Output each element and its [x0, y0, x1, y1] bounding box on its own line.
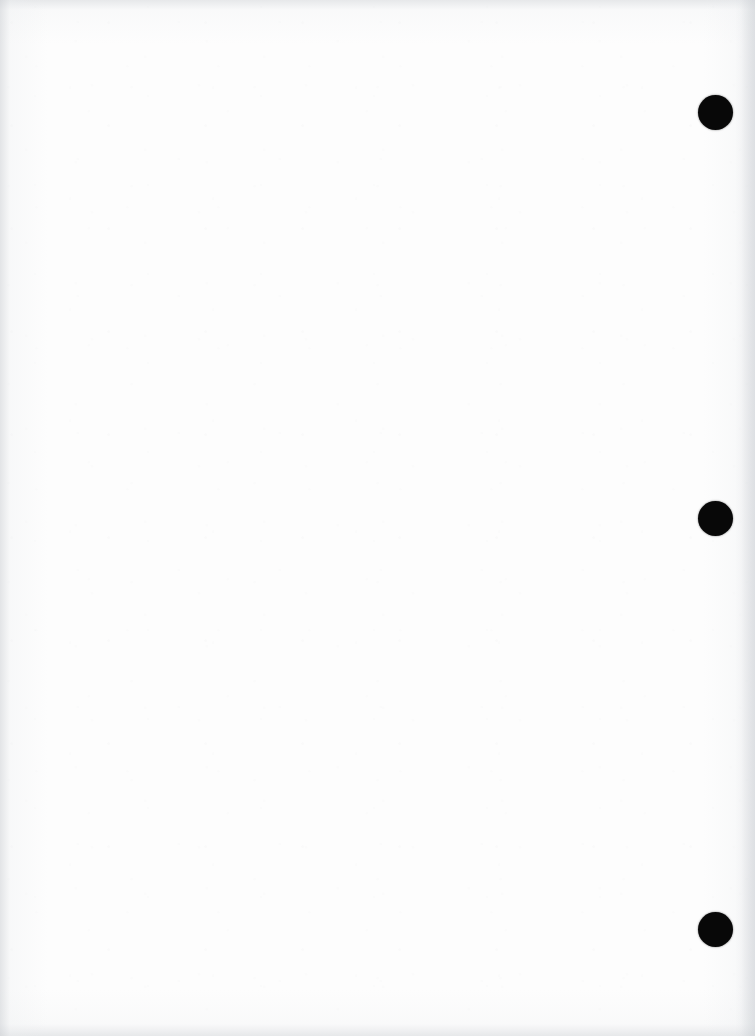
registration-dot: [698, 912, 733, 947]
registration-dot: [698, 95, 733, 130]
scanned-page: [0, 0, 755, 1036]
registration-dot: [698, 501, 733, 536]
page-body-text: [70, 80, 630, 940]
